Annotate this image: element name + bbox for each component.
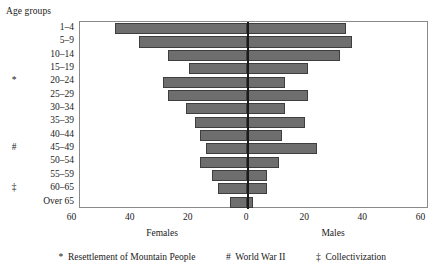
bar-females-45–49: [206, 143, 247, 154]
category-label: 25–29: [50, 90, 79, 100]
footnote-text: Resettlement of Mountain People: [68, 252, 195, 262]
x-tick-label: 20: [299, 212, 309, 222]
bar-males-45–49: [247, 143, 317, 154]
bar-males-55–59: [247, 170, 267, 181]
bar-females-60–65: [218, 183, 247, 194]
category-label: 45–49: [50, 143, 79, 153]
pyramid-row: [80, 49, 427, 62]
category-label-column: 1–45–910–1415–19*20–2425–2930–3435–3940–…: [0, 21, 79, 208]
footnote-item: ‡Collectivization: [315, 252, 386, 262]
x-tick-label: 0: [244, 212, 249, 222]
bars-layer: [80, 22, 427, 207]
category-label-row: ‡60–65: [0, 181, 79, 194]
category-label: 10–14: [50, 50, 79, 60]
category-label: 55–59: [50, 170, 79, 180]
category-label-row: *20–24: [0, 74, 79, 87]
x-tick-label: 20: [183, 212, 193, 222]
category-marker-icon: ‡: [8, 183, 20, 193]
category-marker-icon: #: [8, 143, 20, 153]
bar-females-5–9: [139, 36, 247, 47]
x-axis-ticks: 6040200204060: [79, 209, 428, 225]
bar-males-25–29: [247, 90, 308, 101]
footnote-item: #World War II: [225, 252, 285, 262]
x-tick-label: 60: [416, 212, 426, 222]
category-label: 1–4: [60, 23, 79, 33]
bar-females-1–4: [115, 23, 247, 34]
category-label: 30–34: [50, 103, 79, 113]
bar-females-20–24: [163, 77, 247, 88]
pyramid-row: [80, 116, 427, 129]
category-marker-icon: *: [8, 76, 20, 86]
category-label: 35–39: [50, 116, 79, 126]
pyramid-row: [80, 129, 427, 142]
category-label-row: 15–19: [0, 61, 79, 74]
category-label-row: 35–39: [0, 115, 79, 128]
bar-females-55–59: [212, 170, 247, 181]
bar-females-10–14: [168, 50, 247, 61]
footnote-symbol-icon: ‡: [315, 252, 321, 262]
category-label: Over 65: [43, 197, 79, 207]
bar-males-15–19: [247, 63, 308, 74]
pyramid-row: [80, 62, 427, 75]
category-label-row: 25–29: [0, 88, 79, 101]
footnote-text: Collectivization: [325, 252, 386, 262]
pyramid-row: [80, 102, 427, 115]
footnote-item: *Resettlement of Mountain People: [58, 252, 195, 262]
females-axis-caption: Females: [146, 228, 178, 238]
bar-females-Over-65: [230, 197, 247, 208]
bar-males-10–14: [247, 50, 340, 61]
category-label-row: #45–49: [0, 141, 79, 154]
category-label: 50–54: [50, 156, 79, 166]
bar-males-20–24: [247, 77, 285, 88]
pyramid-row: [80, 35, 427, 48]
category-label-row: 55–59: [0, 168, 79, 181]
category-label: 20–24: [50, 76, 79, 86]
population-pyramid-chart: Age groups 1–45–910–1415–19*20–2425–2930…: [0, 0, 444, 275]
age-groups-axis-title: Age groups: [6, 6, 51, 16]
pyramid-row: [80, 169, 427, 182]
category-label-row: 50–54: [0, 155, 79, 168]
bar-females-50–54: [200, 157, 247, 168]
x-tick-label: 40: [125, 212, 135, 222]
pyramid-row: [80, 156, 427, 169]
category-label-row: Over 65: [0, 195, 79, 208]
bar-males-50–54: [247, 157, 279, 168]
pyramid-row: [80, 196, 427, 209]
footnote-symbol-icon: *: [58, 252, 64, 262]
category-label: 5–9: [60, 36, 79, 46]
bar-females-35–39: [195, 117, 247, 128]
footnote-symbol-icon: #: [225, 252, 231, 262]
bar-males-1–4: [247, 23, 346, 34]
plot-area: [79, 21, 428, 208]
category-label: 60–65: [50, 183, 79, 193]
footnote-text: World War II: [235, 252, 285, 262]
category-label-row: 1–4: [0, 21, 79, 34]
category-label-row: 40–44: [0, 128, 79, 141]
pyramid-row: [80, 89, 427, 102]
bar-females-30–34: [186, 103, 247, 114]
pyramid-row: [80, 22, 427, 35]
bar-males-60–65: [247, 183, 267, 194]
x-tick-label: 40: [358, 212, 368, 222]
bar-males-5–9: [247, 36, 352, 47]
bar-males-40–44: [247, 130, 282, 141]
category-label-row: 30–34: [0, 101, 79, 114]
bar-females-15–19: [189, 63, 247, 74]
bar-females-40–44: [200, 130, 247, 141]
pyramid-row: [80, 142, 427, 155]
bar-females-25–29: [168, 90, 247, 101]
x-tick-label: 60: [67, 212, 77, 222]
pyramid-row: [80, 75, 427, 88]
category-label-row: 5–9: [0, 34, 79, 47]
bar-males-30–34: [247, 103, 285, 114]
males-axis-caption: Males: [321, 228, 344, 238]
category-label: 15–19: [50, 63, 79, 73]
bar-males-35–39: [247, 117, 305, 128]
category-label: 40–44: [50, 130, 79, 140]
pyramid-row: [80, 182, 427, 195]
category-label-row: 10–14: [0, 48, 79, 61]
footnote-row: *Resettlement of Mountain People#World W…: [0, 252, 444, 262]
zero-axis-line: [247, 22, 249, 209]
